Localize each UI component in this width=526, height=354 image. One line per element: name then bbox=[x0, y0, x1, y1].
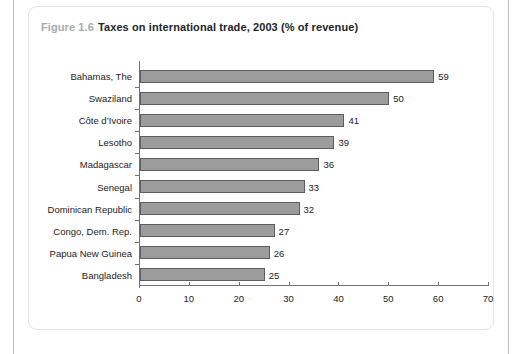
x-axis-tick-label: 70 bbox=[483, 293, 494, 304]
bar bbox=[140, 202, 300, 215]
bar bbox=[140, 136, 334, 149]
bar-row: Lesotho39 bbox=[139, 131, 488, 153]
page-gutter-line-left bbox=[13, 0, 14, 354]
x-axis-tick-mark bbox=[338, 282, 339, 286]
x-axis-tick-mark bbox=[189, 282, 190, 286]
category-label: Senegal bbox=[97, 181, 132, 192]
bar-row: Swaziland50 bbox=[139, 87, 488, 109]
x-axis-tick-label: 0 bbox=[136, 293, 141, 304]
category-label: Madagascar bbox=[80, 159, 132, 170]
category-label: Bahamas, The bbox=[70, 71, 132, 82]
bar bbox=[140, 114, 344, 127]
x-axis-tick-mark bbox=[239, 282, 240, 286]
bar-value-label: 25 bbox=[269, 269, 280, 280]
bar-row: Madagascar36 bbox=[139, 153, 488, 175]
figure-title-text: Taxes on international trade, 2003 (% of… bbox=[98, 21, 358, 33]
category-label: Côte d’Ivoire bbox=[79, 115, 132, 126]
chart-plot-area: Bahamas, The59Swaziland50Côte d’Ivoire41… bbox=[139, 65, 488, 286]
bar bbox=[140, 158, 319, 171]
bar-row: Bangladesh25 bbox=[139, 264, 488, 286]
bar-value-label: 27 bbox=[279, 225, 290, 236]
figure-title: Figure 1.6Taxes on international trade, … bbox=[41, 21, 358, 33]
bar-value-label: 33 bbox=[309, 181, 320, 192]
x-axis-tick-mark bbox=[488, 282, 489, 286]
category-label: Papua New Guinea bbox=[50, 247, 132, 258]
bar-value-label: 32 bbox=[304, 203, 315, 214]
bar-value-label: 50 bbox=[393, 93, 404, 104]
category-label: Swaziland bbox=[89, 93, 132, 104]
x-axis-tick-mark bbox=[388, 282, 389, 286]
bar-value-label: 26 bbox=[274, 247, 285, 258]
bar-row: Côte d’Ivoire41 bbox=[139, 109, 488, 131]
page-gutter-line-right bbox=[508, 0, 509, 354]
x-axis-tick-mark bbox=[289, 282, 290, 286]
bar bbox=[140, 224, 275, 237]
bar bbox=[140, 268, 265, 281]
x-axis-tick-label: 30 bbox=[283, 293, 294, 304]
figure-card: Figure 1.6Taxes on international trade, … bbox=[28, 6, 494, 330]
bar-row: Senegal33 bbox=[139, 176, 488, 198]
bar-row: Papua New Guinea26 bbox=[139, 242, 488, 264]
bar-value-label: 59 bbox=[438, 71, 449, 82]
x-axis-tick-label: 50 bbox=[383, 293, 394, 304]
category-label: Dominican Republic bbox=[48, 203, 132, 214]
x-axis-tick-label: 10 bbox=[184, 293, 195, 304]
category-label: Congo, Dem. Rep. bbox=[53, 225, 132, 236]
x-axis-tick-label: 20 bbox=[233, 293, 244, 304]
bar-row: Bahamas, The59 bbox=[139, 65, 488, 87]
x-axis-tick-label: 40 bbox=[333, 293, 344, 304]
bar-row: Dominican Republic32 bbox=[139, 198, 488, 220]
x-axis-tick-mark bbox=[438, 282, 439, 286]
bar-value-label: 39 bbox=[338, 137, 349, 148]
bar-value-label: 41 bbox=[348, 115, 359, 126]
bar bbox=[140, 246, 270, 259]
figure-number: Figure 1.6 bbox=[41, 21, 94, 33]
x-axis-tick-label: 60 bbox=[433, 293, 444, 304]
bar-row: Congo, Dem. Rep.27 bbox=[139, 220, 488, 242]
category-label: Bangladesh bbox=[82, 269, 132, 280]
bar-value-label: 36 bbox=[323, 159, 334, 170]
bar bbox=[140, 70, 434, 83]
bar bbox=[140, 180, 305, 193]
bar bbox=[140, 92, 389, 105]
x-axis-tick-mark bbox=[139, 282, 140, 286]
category-label: Lesotho bbox=[98, 137, 132, 148]
bar-rows: Bahamas, The59Swaziland50Côte d’Ivoire41… bbox=[139, 65, 488, 286]
